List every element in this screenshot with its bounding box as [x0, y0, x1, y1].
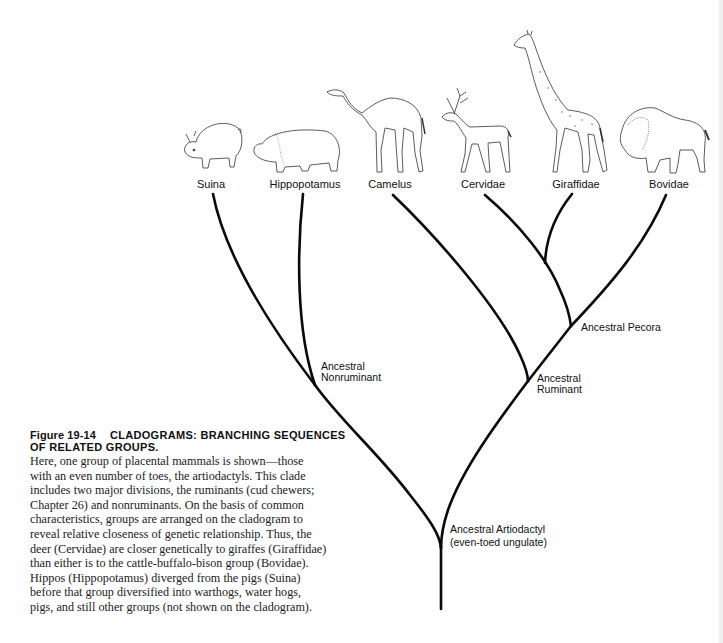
branch-giraffidae	[545, 194, 572, 263]
bison-illustration	[620, 108, 709, 173]
taxon-label-suina: Suina	[197, 178, 225, 190]
taxon-label-cervidae: Cervidae	[461, 178, 505, 190]
taxon-label-bovidae: Bovidae	[649, 178, 689, 190]
figure-caption: Figure 19-14CLADOGRAMS: BRANCHING SEQUEN…	[30, 430, 365, 615]
caption-title: Figure 19-14CLADOGRAMS: BRANCHING SEQUEN…	[30, 430, 365, 453]
figure-number: Figure 19-14	[30, 429, 96, 441]
caption-body: Here, one group of placental mammals is …	[30, 454, 365, 615]
branch-hippopotamus	[299, 194, 315, 385]
caption-line: reveal relative closeness of genetic rel…	[30, 527, 365, 542]
deer-illustration	[442, 88, 511, 172]
caption-line: before that group diversified into warth…	[30, 585, 365, 600]
giraffe-illustration	[514, 30, 607, 172]
hippopotamus-illustration	[254, 130, 340, 172]
taxon-label-giraffidae: Giraffidae	[552, 178, 600, 190]
taxon-label-hippopotamus: Hippopotamus	[270, 178, 341, 190]
caption-line: Chapter 26) and nonruminants. On the bas…	[30, 498, 365, 513]
caption-line: with an even number of toes, the artioda…	[30, 469, 365, 484]
node-label-ancestral-ruminant: Ancestral Ruminant	[537, 373, 582, 395]
figure-title-line-1: CLADOGRAMS: BRANCHING SEQUENCES	[110, 429, 345, 441]
figure-title-line-2: OF RELATED GROUPS.	[30, 442, 365, 454]
caption-line: than either is to the cattle-buffalo-bis…	[30, 556, 365, 571]
branch-camelus	[393, 195, 528, 381]
node-label-ancestral-artiodactyl: Ancestral Artiodactyl (even-toed ungulat…	[450, 523, 547, 549]
camel-illustration	[327, 90, 425, 172]
caption-line: Hippos (Hippopotamus) diverged from the …	[30, 571, 365, 586]
caption-line: deer (Cervidae) are closer genetically t…	[30, 542, 365, 557]
pig-illustration	[185, 123, 242, 168]
caption-line: includes two major divisions, the rumina…	[30, 483, 365, 498]
caption-line: Here, one group of placental mammals is …	[30, 454, 365, 469]
node-label-ancestral-nonruminant: Ancestral Nonruminant	[321, 361, 381, 383]
textbook-figure-page: Suina Hippopotamus Camelus Cervidae Gira…	[0, 0, 723, 643]
caption-line: pigs, and still other groups (not shown …	[30, 600, 365, 615]
taxon-label-camelus: Camelus	[368, 178, 411, 190]
branch-bovidae	[571, 195, 666, 326]
node-label-ancestral-pecora: Ancestral Pecora	[581, 322, 661, 333]
caption-line: characteristics, groups are arranged on …	[30, 512, 365, 527]
